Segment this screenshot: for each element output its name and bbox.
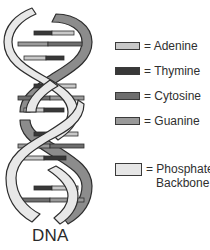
legend-label-thymine: = Thymine (144, 64, 200, 78)
legend-label-guanine: = Guanine (144, 114, 200, 128)
legend-item-guanine: = Guanine (115, 114, 200, 128)
thymine-swatch-icon (115, 67, 140, 75)
legend-label-cytosine: = Cytosine (144, 89, 201, 103)
legend-item-phosphate-backbone: = Phosphate Backbone (115, 162, 210, 190)
guanine-swatch-icon (115, 117, 140, 125)
front-backbone-strand (4, 8, 84, 224)
cytosine-swatch-icon (115, 92, 140, 100)
legend-label-adenine: = Adenine (144, 39, 198, 53)
phosphate-backbone-swatch-icon (115, 163, 142, 176)
legend-label-phosphate-backbone: = Phosphate Backbone (146, 162, 210, 190)
dna-double-helix-illustration (0, 0, 110, 230)
adenine-swatch-icon (115, 42, 140, 50)
diagram-title: DNA (32, 226, 69, 246)
legend-item-thymine: = Thymine (115, 64, 200, 78)
legend-item-adenine: = Adenine (115, 39, 198, 53)
legend-item-cytosine: = Cytosine (115, 89, 201, 103)
